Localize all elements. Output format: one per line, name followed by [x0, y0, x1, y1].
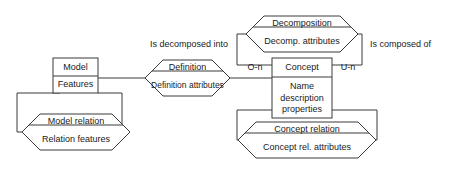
entity-concept[interactable]: Concept Name description properties — [272, 58, 332, 118]
relationship-definition-attributes: Definition attributes — [151, 80, 224, 90]
cardinality-right: U-n — [341, 62, 356, 72]
entity-model-name: Model — [63, 62, 88, 72]
entity-concept-name: Concept — [285, 62, 319, 72]
edge-label-is-decomposed-into: Is decomposed into — [150, 39, 228, 49]
relationship-concept-relation[interactable]: Concept relation Concept rel. attributes — [238, 122, 376, 158]
relationship-decomposition[interactable]: Decomposition Decomp. attributes — [246, 16, 358, 52]
entity-model[interactable]: Model Features — [53, 58, 98, 93]
entity-model-attributes: Features — [58, 79, 94, 89]
relationship-decomposition-attributes: Decomp. attributes — [264, 36, 340, 46]
edge-label-is-composed-of: Is composed of — [370, 39, 432, 49]
er-diagram: Model Features Model relation Relation f… — [0, 0, 449, 175]
entity-concept-attribute-properties: properties — [282, 104, 323, 114]
relationship-model-relation-attributes: Relation features — [42, 134, 111, 144]
cardinality-left: O-n — [247, 62, 262, 72]
relationship-decomposition-name: Decomposition — [272, 18, 332, 28]
entity-concept-attribute-name: Name — [290, 81, 314, 91]
relationship-model-relation-name: Model relation — [48, 116, 105, 126]
relationship-concept-relation-attributes: Concept rel. attributes — [263, 142, 352, 152]
diagram-canvas: Model Features Model relation Relation f… — [0, 0, 449, 175]
relationship-model-relation[interactable]: Model relation Relation features — [22, 114, 130, 150]
relationship-concept-relation-name: Concept relation — [274, 124, 340, 134]
relationship-definition-name: Definition — [169, 62, 207, 72]
entity-concept-attribute-description: description — [280, 93, 324, 103]
relationship-definition[interactable]: Definition Definition attributes — [145, 60, 230, 96]
